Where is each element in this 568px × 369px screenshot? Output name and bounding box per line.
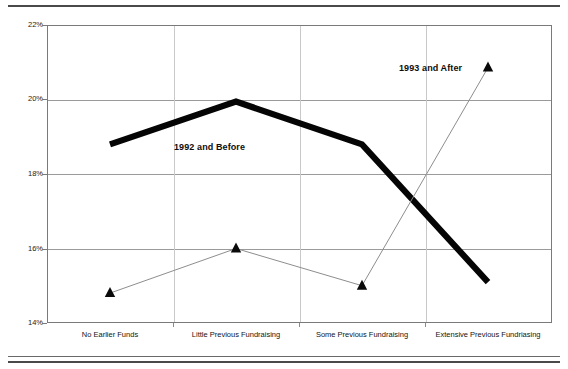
series-line-1992 xyxy=(110,102,488,283)
x-category-label-1: No Earlier Funds xyxy=(82,331,138,339)
y-tick-label-14: 14% xyxy=(3,319,43,327)
series-line-1993 xyxy=(110,68,488,294)
x-category-label-4: Extensive Previous Fundriasing xyxy=(435,331,540,339)
series-annotation-1992: 1992 and Before xyxy=(174,142,245,152)
page-root: 22% 20% 18% 16% 14% xyxy=(0,0,568,369)
x-tick-mark-1 xyxy=(173,323,174,327)
x-tick-mark-3 xyxy=(425,323,426,327)
y-tick-label-22: 22% xyxy=(3,21,43,29)
series-marker-1993-point-2 xyxy=(231,243,241,253)
x-category-label-3: Some Previous Fundraising xyxy=(316,331,408,339)
y-tick-label-16: 16% xyxy=(3,245,43,253)
line-chart-figure: 22% 20% 18% 16% 14% xyxy=(0,0,568,369)
x-tick-mark-2 xyxy=(299,323,300,327)
series-marker-1993-point-4 xyxy=(483,62,493,72)
x-category-label-2: Little Previous Fundraising xyxy=(192,331,280,339)
page-rule-bottom-thick xyxy=(8,361,560,363)
series-plot-layer xyxy=(47,25,552,323)
page-rule-bottom-thin xyxy=(8,356,560,357)
y-tick-label-18: 18% xyxy=(3,170,43,178)
y-tick-label-20: 20% xyxy=(3,95,43,103)
y-tick-mark-14 xyxy=(42,323,47,324)
series-annotation-1993: 1993 and After xyxy=(399,63,462,73)
